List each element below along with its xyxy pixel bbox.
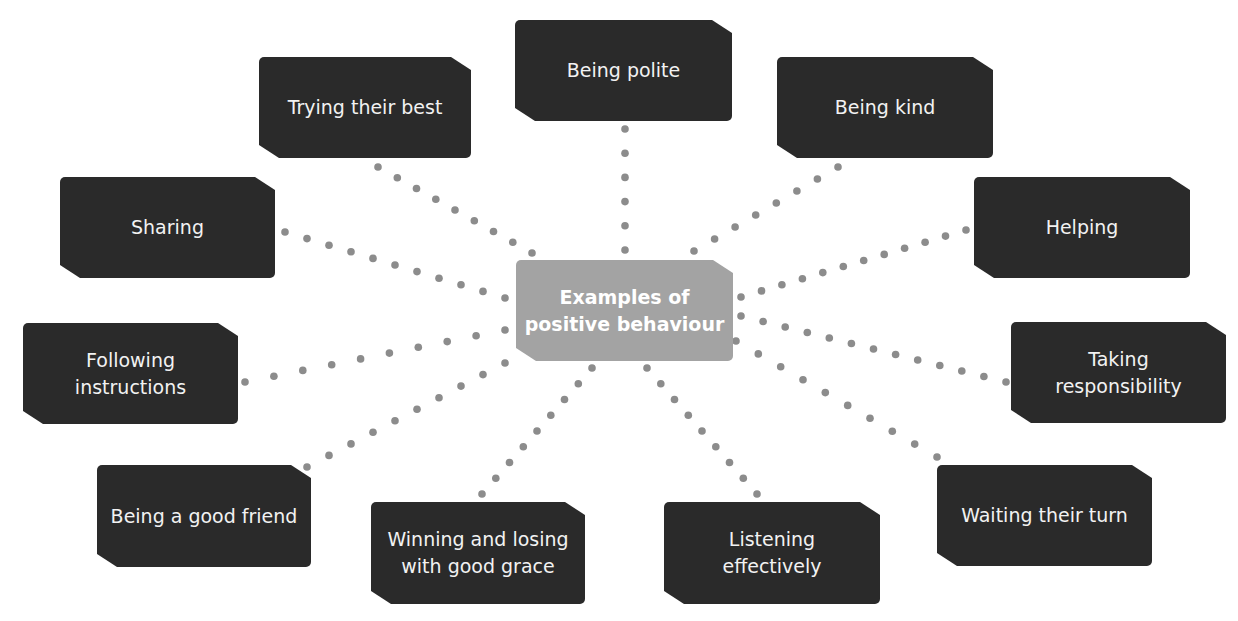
node-trying-their-best: Trying their best: [259, 57, 471, 158]
node-label: Being a good friend: [111, 503, 298, 530]
node-winning-and-losing: Winning and losing with good grace: [371, 502, 585, 604]
node-sharing: Sharing: [60, 177, 275, 278]
node-following-instructions: Following instructions: [23, 323, 238, 424]
node-label: Taking responsibility: [1055, 346, 1181, 400]
node-label: Listening effectively: [722, 526, 821, 580]
node-taking-responsibility: Taking responsibility: [1011, 322, 1226, 423]
node-label: Trying their best: [288, 94, 443, 121]
node-being-polite: Being polite: [515, 20, 732, 121]
node-label: Winning and losing with good grace: [387, 526, 568, 580]
node-label: Following instructions: [75, 347, 186, 401]
node-being-a-good-friend: Being a good friend: [97, 465, 311, 567]
node-label: Sharing: [131, 214, 204, 241]
node-listening-effectively: Listening effectively: [664, 502, 880, 604]
node-being-kind: Being kind: [777, 57, 993, 158]
node-waiting-their-turn: Waiting their turn: [937, 465, 1152, 566]
node-label: Being kind: [835, 94, 936, 121]
node-helping: Helping: [974, 177, 1190, 278]
center-node-label: Examples of positive behaviour: [525, 284, 725, 338]
node-label: Waiting their turn: [961, 502, 1128, 529]
node-label: Helping: [1046, 214, 1119, 241]
node-label: Being polite: [567, 57, 681, 84]
center-node-positive-behaviour: Examples of positive behaviour: [516, 260, 733, 361]
